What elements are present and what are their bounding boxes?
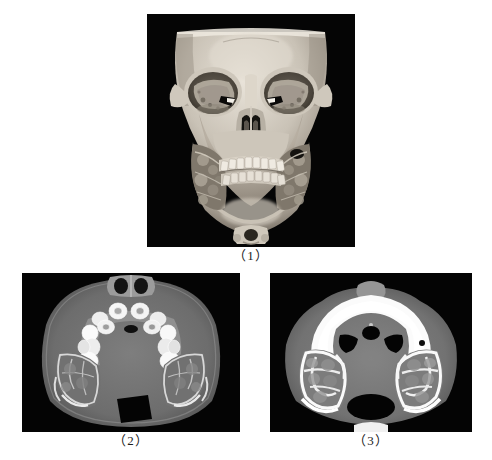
right-orbit (260, 67, 318, 117)
left-orbit (184, 67, 242, 117)
panel-3-caption: （3） (270, 433, 472, 449)
cervical-vertebra (233, 225, 269, 244)
panel-2-caption: （2） (22, 433, 240, 449)
panel-2-axial-ct-dental-arch (22, 273, 240, 432)
panel-3-axial-ct-hard-palate (270, 273, 472, 432)
panel-1-caption: （1） (147, 248, 355, 264)
panel-1-3d-skull-reconstruction (147, 14, 355, 247)
axial-ct-image-upper (270, 273, 472, 432)
ct-figure: （1） (0, 0, 492, 460)
skull-3d-image (147, 14, 355, 247)
axial-ct-image-lower (22, 273, 240, 432)
